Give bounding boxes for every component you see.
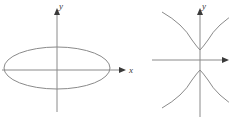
figure-canvas: y x y (0, 0, 229, 118)
hyperbola-svg: y (145, 0, 229, 118)
x-axis-arrow-icon (222, 57, 229, 63)
x-axis-arrow-icon (119, 67, 126, 73)
y-axis-label: y (201, 1, 206, 11)
hyperbola-lower-branch (162, 70, 229, 108)
hyperbola-diagram: y (145, 0, 229, 118)
y-axis-label: y (58, 1, 63, 11)
hyperbola-upper-branch (162, 12, 229, 50)
ellipse-svg: y x (0, 0, 145, 118)
ellipse-diagram: y x (0, 0, 145, 118)
x-axis-label: x (128, 65, 133, 75)
